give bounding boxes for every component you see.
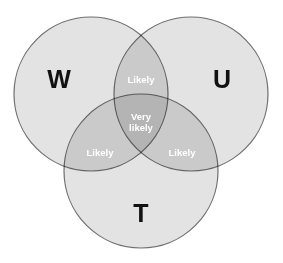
region-label-w-u: Likely [128,74,155,85]
region-label-w-u-t-line1: Very [119,111,163,122]
region-label-u-t: Likely [169,147,196,158]
venn-diagram: W U T Likely Likely Likely Very likely [0,0,283,263]
set-label-w: W [47,67,71,92]
region-label-w-u-t: Very likely [119,111,163,133]
set-label-u: U [213,67,231,92]
region-label-w-t: Likely [87,147,114,158]
region-label-w-u-t-line2: likely [119,122,163,133]
set-label-t: T [133,201,148,226]
